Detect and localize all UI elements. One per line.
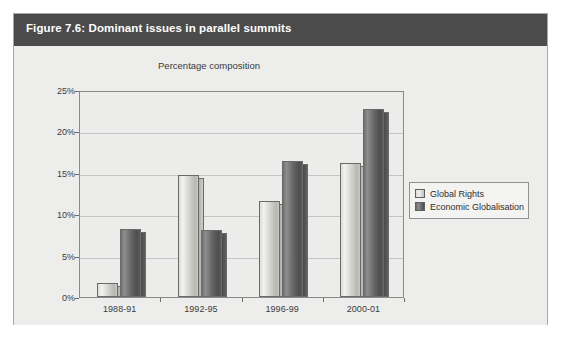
chart-title: Percentage composition [14, 60, 404, 71]
y-axis-tick-label: 25% [41, 86, 75, 96]
figure-title: Figure 7.6: Dominant issues in parallel … [26, 22, 291, 34]
legend-item-label: Economic Globalisation [430, 202, 524, 212]
y-axis: 0%5%10%15%20%25% [37, 91, 75, 298]
bar-1996-99-global-rights [259, 201, 280, 297]
bar-front-face [178, 175, 199, 297]
y-axis-tick-mark [75, 298, 79, 299]
bar-1992-95-global-rights [178, 175, 199, 297]
dark-swatch-icon [415, 202, 425, 211]
bar-front-face [201, 230, 222, 297]
light-swatch-icon [415, 189, 425, 198]
legend-item-label: Global Rights [430, 189, 484, 199]
chart-legend: Global RightsEconomic Globalisation [409, 182, 529, 219]
x-axis-tick-mark [160, 298, 161, 302]
bar-1992-95-economic-globalisation [201, 230, 222, 297]
bar-1988-91-economic-globalisation [120, 229, 141, 297]
bar-2000-01-global-rights [340, 163, 361, 297]
plot-area [79, 91, 404, 298]
x-axis-tick-label: 1988-91 [80, 304, 160, 314]
x-axis-tick-mark [404, 298, 405, 302]
bar-side-face [141, 232, 146, 297]
y-axis-tick-label: 5% [41, 252, 75, 262]
legend-item: Global Rights [415, 187, 523, 200]
y-axis-tick-mark [75, 174, 79, 175]
bar-1996-99-economic-globalisation [282, 161, 303, 297]
figure-container: Figure 7.6: Dominant issues in parallel … [13, 13, 548, 325]
bar-front-face [120, 229, 141, 297]
y-axis-tick-label: 0% [41, 293, 75, 303]
legend-item: Economic Globalisation [415, 200, 523, 213]
x-axis-tick-mark [323, 298, 324, 302]
gridline [80, 133, 403, 134]
y-axis-tick-mark [75, 132, 79, 133]
x-axis-tick-label: 1996-99 [242, 304, 322, 314]
bar-side-face [303, 164, 308, 297]
figure-body: Percentage composition 0%5%10%15%20%25% … [14, 46, 547, 325]
y-axis-tick-mark [75, 215, 79, 216]
bar-front-face [282, 161, 303, 297]
figure-header-bar: Figure 7.6: Dominant issues in parallel … [14, 14, 547, 46]
x-axis-tick-mark [242, 298, 243, 302]
y-axis-tick-label: 10% [41, 210, 75, 220]
y-axis-tick-label: 15% [41, 169, 75, 179]
bar-side-face [384, 112, 389, 297]
y-axis-tick-mark [75, 91, 79, 92]
bar-side-face [222, 233, 227, 297]
x-axis-tick-label: 2000-01 [323, 304, 403, 314]
bar-front-face [363, 109, 384, 297]
y-axis-tick-label: 20% [41, 127, 75, 137]
y-axis-tick-mark [75, 257, 79, 258]
bar-front-face [340, 163, 361, 297]
bar-2000-01-economic-globalisation [363, 109, 384, 297]
bar-front-face [259, 201, 280, 297]
bar-1988-91-global-rights [97, 283, 118, 297]
bar-front-face [97, 283, 118, 297]
x-axis-tick-label: 1992-95 [161, 304, 241, 314]
